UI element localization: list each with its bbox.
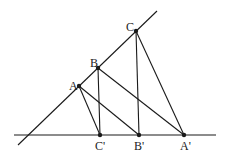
connecting-segments — [79, 31, 184, 135]
label-cp: C' — [95, 139, 105, 153]
point-ap — [182, 133, 186, 137]
segment-b-ap — [98, 68, 184, 135]
label-bp: B' — [134, 139, 144, 153]
geometry-diagram: ABCC'B'A' — [0, 0, 228, 159]
point-cp — [98, 133, 102, 137]
label-c: C — [126, 20, 134, 34]
point-labels: ABCC'B'A' — [69, 20, 191, 153]
segment-c-bp — [136, 31, 139, 135]
label-ap: A' — [180, 139, 191, 153]
point-c — [134, 29, 138, 33]
segment-c-ap — [136, 31, 184, 135]
points — [77, 29, 186, 137]
label-b: B — [90, 56, 98, 70]
label-a: A — [69, 79, 78, 93]
point-bp — [137, 133, 141, 137]
segment-a-cp — [79, 86, 100, 135]
